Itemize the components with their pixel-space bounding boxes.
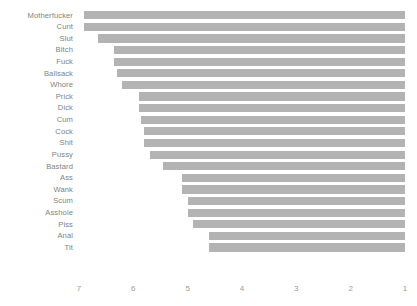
bar-row: Whore [0,79,417,91]
bar [98,34,405,42]
bar-row: Ass [0,172,417,184]
bar [114,58,405,66]
category-label: Dick [0,102,73,114]
category-label: Piss [0,219,73,231]
bar-row: Cock [0,126,417,138]
x-axis-tick-label: 6 [123,284,143,293]
bar-row: Scum [0,195,417,207]
x-axis-tick-label: 7 [69,284,89,293]
bar-row: Fuck [0,56,417,68]
bar [144,127,405,135]
bar-row: Wank [0,184,417,196]
x-axis-tick-label: 2 [341,284,361,293]
x-axis-tick-label: 3 [286,284,306,293]
bar-row: Dick [0,102,417,114]
category-label: Prick [0,91,73,103]
plot-area: MotherfuckerCuntSlutBitchFuckBallsackWho… [0,0,417,280]
bar [188,197,405,205]
bar-row: Anal [0,230,417,242]
category-label: Ballsack [0,68,73,80]
x-axis-tick-label: 5 [178,284,198,293]
bar [209,232,405,240]
bar-chart: MotherfuckerCuntSlutBitchFuckBallsackWho… [0,0,417,306]
bar-row: Motherfucker [0,10,417,22]
category-label: Bastard [0,161,73,173]
category-label: Motherfucker [0,10,73,22]
category-label: Fuck [0,56,73,68]
category-label: Cum [0,114,73,126]
bar [114,46,405,54]
category-label: Whore [0,79,73,91]
bar-row: Cum [0,114,417,126]
bar [84,11,405,19]
category-label: Asshole [0,207,73,219]
bar [117,69,405,77]
bar [150,151,405,159]
bar [139,92,405,100]
bar-row: Cunt [0,21,417,33]
category-label: Cock [0,126,73,138]
category-label: Ass [0,172,73,184]
x-axis: 7654321 [0,280,417,306]
bar-row: Tit [0,242,417,254]
bar [122,81,405,89]
bar [141,116,405,124]
bar [144,139,405,147]
bar [188,209,405,217]
category-label: Bitch [0,44,73,56]
x-axis-tick-label: 4 [232,284,252,293]
bar-row: Slut [0,33,417,45]
category-label: Wank [0,184,73,196]
bar [163,162,405,170]
category-label: Shit [0,137,73,149]
category-label: Slut [0,33,73,45]
bar-row: Bitch [0,44,417,56]
bar [182,174,405,182]
bar [139,104,405,112]
category-label: Pussy [0,149,73,161]
bar-row: Ballsack [0,68,417,80]
category-label: Scum [0,195,73,207]
category-label: Cunt [0,21,73,33]
bar-row: Piss [0,219,417,231]
bar-row: Pussy [0,149,417,161]
x-axis-tick-label: 1 [395,284,415,293]
bar-row: Asshole [0,207,417,219]
bar [209,243,405,251]
category-label: Tit [0,242,73,254]
bar-row: Shit [0,137,417,149]
bar-row: Prick [0,91,417,103]
bar [84,23,405,31]
bar [193,220,405,228]
bar-row: Bastard [0,161,417,173]
bar [182,185,405,193]
category-label: Anal [0,230,73,242]
